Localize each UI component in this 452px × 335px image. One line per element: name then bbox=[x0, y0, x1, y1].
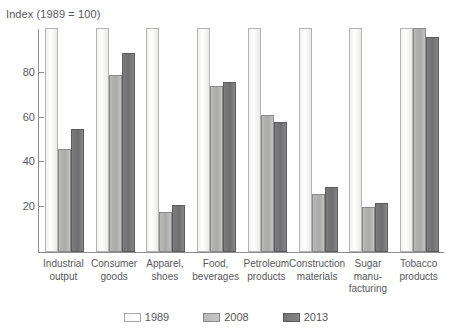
bars-layer bbox=[39, 29, 444, 252]
bar-1989-base bbox=[248, 28, 261, 252]
legend-item-2013[interactable]: 2013 bbox=[283, 311, 328, 323]
bar-2013-value bbox=[274, 122, 287, 252]
bar-2013-value bbox=[223, 82, 236, 252]
x-axis-label: Tobaccoproducts bbox=[387, 258, 450, 283]
bar-2008-value bbox=[210, 86, 223, 252]
legend-label: 2013 bbox=[304, 311, 328, 323]
legend-item-2008[interactable]: 2008 bbox=[203, 311, 248, 323]
y-tick: 40 bbox=[39, 161, 44, 162]
bar-2008-value bbox=[312, 194, 325, 252]
x-axis-label-line: products bbox=[387, 271, 450, 284]
y-tick-label: 60 bbox=[23, 111, 35, 123]
bar-2008-value bbox=[58, 149, 71, 252]
y-tick-label: 20 bbox=[23, 200, 35, 212]
bar-2013-value bbox=[71, 129, 84, 252]
y-tick: 20 bbox=[39, 206, 44, 207]
bar-2013-value bbox=[426, 37, 439, 252]
bar-2013-value bbox=[375, 203, 388, 252]
bar-2013-value bbox=[172, 205, 185, 252]
bar-2013-value bbox=[325, 187, 338, 252]
y-tick-label: 40 bbox=[23, 155, 35, 167]
bar-2013-value bbox=[122, 53, 135, 252]
bar-2008-value bbox=[413, 28, 426, 252]
bar-1989-base bbox=[349, 28, 362, 252]
bar-1989-base bbox=[45, 28, 58, 252]
legend-label: 2008 bbox=[224, 311, 248, 323]
bar-group bbox=[248, 29, 287, 252]
bar-2008-value bbox=[109, 75, 122, 252]
bar-group bbox=[299, 29, 338, 252]
bar-2008-value bbox=[261, 115, 274, 252]
bar-1989-base bbox=[146, 28, 159, 252]
plot-area: 20406080 bbox=[38, 29, 444, 253]
bar-1989-base bbox=[299, 28, 312, 252]
x-axis-label-line: Tobacco bbox=[387, 258, 450, 271]
bar-1989-base bbox=[400, 28, 413, 252]
y-tick: 80 bbox=[39, 72, 44, 73]
legend-swatch-icon bbox=[283, 313, 300, 322]
y-tick-label: 80 bbox=[23, 66, 35, 78]
bar-1989-base bbox=[96, 28, 109, 252]
chart-legend: 198920082013 bbox=[0, 311, 452, 323]
bar-group bbox=[400, 29, 439, 252]
bar-group bbox=[45, 29, 84, 252]
bar-group bbox=[96, 29, 135, 252]
legend-swatch-icon bbox=[203, 313, 220, 322]
bar-chart: Index (1989 = 100) 20406080 Industrialou… bbox=[0, 0, 452, 335]
bar-2008-value bbox=[362, 207, 375, 252]
chart-axis-title: Index (1989 = 100) bbox=[6, 8, 100, 20]
x-axis-labels: IndustrialoutputConsumergoodsApparel,sho… bbox=[38, 258, 444, 304]
y-tick: 60 bbox=[39, 117, 44, 118]
legend-swatch-icon bbox=[124, 313, 141, 322]
bar-group bbox=[146, 29, 185, 252]
bar-1989-base bbox=[197, 28, 210, 252]
legend-label: 1989 bbox=[145, 311, 169, 323]
legend-item-1989[interactable]: 1989 bbox=[124, 311, 169, 323]
x-axis-label-line: facturing bbox=[337, 283, 400, 296]
bar-2008-value bbox=[159, 212, 172, 252]
bar-group bbox=[197, 29, 236, 252]
bar-group bbox=[349, 29, 388, 252]
